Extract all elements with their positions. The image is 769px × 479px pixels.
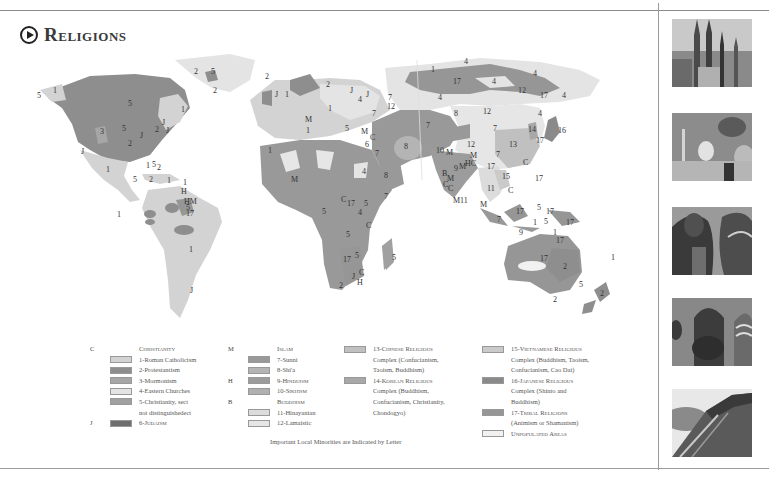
legend-item: H9-Hinduism: [228, 376, 315, 387]
map-region-label: 8: [454, 109, 458, 118]
map-region-label: 10: [436, 146, 444, 155]
map-region-label: 9: [454, 164, 458, 173]
legend-label: 6-Judaism: [139, 418, 167, 429]
map-region-label: 14: [528, 125, 536, 134]
map-region-label: J: [162, 118, 165, 127]
legend-label: 14-Korean Religious: [373, 376, 433, 387]
map-region-label: 2: [339, 281, 343, 290]
map-region-label: 17: [546, 207, 554, 216]
map-region-label: 7: [384, 192, 388, 201]
map-region-label: 8: [384, 171, 388, 180]
map-region-label: 1: [306, 126, 310, 135]
map-region-label: 5: [37, 91, 41, 100]
map-region-label: 4: [562, 91, 566, 100]
map-region-label: M: [459, 162, 466, 171]
map-region-label: 12: [483, 107, 491, 116]
legend-swatch: [110, 388, 132, 395]
map-region-label: 2: [326, 80, 330, 89]
map-region-label: 7: [388, 93, 392, 102]
legend-label: Confucianism, Cao Dai): [511, 365, 574, 376]
legend-label: 16-Japanese Religious: [511, 376, 573, 387]
legend-item: 8-Shi'a: [228, 365, 315, 376]
map-region-label: 1: [533, 218, 537, 227]
map-region-label: C: [341, 195, 346, 204]
map-region-label: 17: [347, 199, 355, 208]
legend-item: Complex (Buddhism, Taoism,: [482, 355, 589, 366]
map-region-label: 1: [53, 86, 57, 95]
legend-minority-letter: C: [90, 344, 110, 355]
legend-item: 2-Protestantism: [90, 365, 196, 376]
legend-label: 11-Hinayanian: [277, 408, 315, 419]
legend-swatch: [248, 367, 270, 374]
map-region-label: 17: [487, 162, 495, 171]
legend-item: Confucianism, Cao Dai): [482, 365, 589, 376]
legend-label: 2-Protestantism: [139, 365, 180, 376]
photo-strip: [672, 0, 752, 479]
play-circle-icon[interactable]: [20, 26, 38, 44]
map-region-label: C: [370, 133, 375, 142]
map-region-label: 5: [152, 160, 156, 169]
map-region-label: 7: [426, 121, 430, 130]
map-region-label: 17: [556, 236, 564, 245]
map-region-label: 12: [467, 140, 475, 149]
legend-swatch: [482, 409, 504, 416]
legend-swatch: [248, 409, 270, 416]
world-map-svg: 515152JJJ32J15215211HHM51711J2522J12J4J7…: [0, 50, 660, 340]
legend-christianity-column: CChristianity1-Roman Catholicism2-Protes…: [90, 344, 196, 429]
legend-label: 10-Sikhism: [277, 386, 307, 397]
map-region-label: 2: [563, 262, 567, 271]
legend-label: 15-Vietnamese Religious: [511, 344, 582, 355]
map-region-label: 2: [194, 67, 198, 76]
legend-swatch: [110, 356, 132, 363]
map-region-label: 1: [611, 253, 615, 262]
legend-east-asian-column: 13-Chinese ReligiousComplex (Confucianis…: [344, 344, 445, 418]
map-region-label: 17: [535, 174, 543, 183]
map-region-label: 4: [358, 208, 362, 217]
map-region-label: 17: [540, 91, 548, 100]
map-region-label: J: [366, 90, 369, 99]
legend-item: MIslam: [228, 344, 315, 355]
photo-mosque: [672, 113, 752, 181]
legend-item: 7-Sunni: [228, 355, 315, 366]
legend-item: 15-Vietnamese Religious: [482, 344, 589, 355]
legend-swatch: [248, 420, 270, 427]
map-region-label: 2: [128, 139, 132, 148]
legend-item: 4-Eastern Churches: [90, 386, 196, 397]
map-region-label: 7: [493, 124, 497, 133]
map-region-label: 1: [268, 146, 272, 155]
map-region-label: 1: [146, 161, 150, 170]
legend-swatch: [482, 430, 504, 437]
legend-label: Taoism, Buddhism): [373, 365, 424, 376]
map-region-label: M11: [453, 196, 468, 205]
legend-item: 17-Tribal Religions: [482, 408, 589, 419]
legend-item: not distinguishedect: [90, 408, 196, 419]
page-title: Religions: [44, 24, 127, 46]
map-region-label: M: [305, 115, 312, 124]
map-region-label: 5: [355, 251, 359, 260]
map-region-label: 4: [358, 95, 362, 104]
legend-minority-letter: M: [228, 344, 248, 355]
legend-label: 1-Roman Catholicism: [139, 355, 196, 366]
legend-item: 14-Korean Religious: [344, 376, 445, 387]
map-region-label: 5: [122, 124, 126, 133]
photo-buddha-statue: [672, 207, 752, 275]
map-region-label: 17: [453, 77, 461, 86]
top-rule: [0, 10, 769, 11]
map-region-label: J: [81, 147, 84, 156]
map-region-label: 2: [265, 72, 269, 81]
map-region-label: C: [359, 268, 364, 277]
photo-onion-dome-church: [672, 298, 752, 366]
legend-item: Complex (Buddhism,: [344, 386, 445, 397]
legend-item: 13-Chinese Religious: [344, 344, 445, 355]
map-region-label: J: [352, 272, 355, 281]
map-region-label: 2: [157, 163, 161, 172]
map-region-label: C: [448, 184, 453, 193]
map-region-label: J: [140, 131, 143, 140]
map-region-label: 5: [133, 175, 137, 184]
map-region-label: 5: [544, 217, 548, 226]
legend-minority-letter: H: [228, 376, 248, 387]
map-region-label: 5: [537, 203, 541, 212]
map-region-label: 15: [502, 172, 510, 181]
legend-swatch: [344, 346, 366, 353]
map-region-label: 7: [375, 149, 379, 158]
